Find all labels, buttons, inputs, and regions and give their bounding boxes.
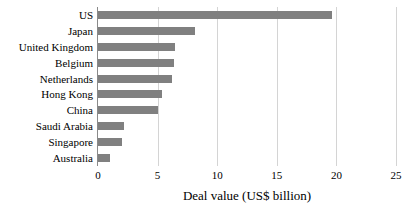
category-label: United Kingdom bbox=[0, 41, 93, 53]
plot-area bbox=[98, 7, 396, 166]
x-axis-tick-label: 15 bbox=[271, 168, 282, 182]
bar-series bbox=[98, 7, 396, 166]
bar bbox=[98, 106, 158, 114]
bar-row bbox=[98, 118, 396, 134]
category-label: China bbox=[0, 104, 93, 116]
bar-row bbox=[98, 134, 396, 150]
bar-row bbox=[98, 39, 396, 55]
bar-chart: USJapanUnited KingdomBelgiumNetherlandsH… bbox=[0, 0, 411, 219]
bar-row bbox=[98, 7, 396, 23]
gridline bbox=[396, 7, 397, 166]
category-label: US bbox=[0, 9, 93, 21]
category-axis: USJapanUnited KingdomBelgiumNetherlandsH… bbox=[0, 7, 93, 166]
bar-row bbox=[98, 102, 396, 118]
x-axis-tick-label: 5 bbox=[155, 168, 161, 182]
x-axis-tick-label: 10 bbox=[212, 168, 223, 182]
bar bbox=[98, 122, 124, 130]
category-label: Japan bbox=[0, 25, 93, 37]
bar bbox=[98, 27, 195, 35]
x-axis-tick-labels: 0510152025 bbox=[98, 168, 396, 184]
category-label: Belgium bbox=[0, 57, 93, 69]
category-label: Netherlands bbox=[0, 73, 93, 85]
bar bbox=[98, 43, 175, 51]
bar-row bbox=[98, 86, 396, 102]
bar-row bbox=[98, 23, 396, 39]
bar bbox=[98, 59, 174, 67]
bar bbox=[98, 11, 332, 19]
bar bbox=[98, 154, 110, 162]
category-label: Singapore bbox=[0, 136, 93, 148]
x-axis-tick-label: 20 bbox=[331, 168, 342, 182]
category-label: Hong Kong bbox=[0, 88, 93, 100]
category-label: Saudi Arabia bbox=[0, 120, 93, 132]
category-label: Australia bbox=[0, 152, 93, 164]
bar bbox=[98, 75, 172, 83]
x-axis-tick-label: 0 bbox=[95, 168, 101, 182]
x-axis-tick-label: 25 bbox=[391, 168, 402, 182]
bar bbox=[98, 90, 162, 98]
bar-row bbox=[98, 55, 396, 71]
bar-row bbox=[98, 150, 396, 166]
bar-row bbox=[98, 71, 396, 87]
x-axis-title: Deal value (US$ billion) bbox=[98, 188, 396, 204]
bar bbox=[98, 138, 122, 146]
